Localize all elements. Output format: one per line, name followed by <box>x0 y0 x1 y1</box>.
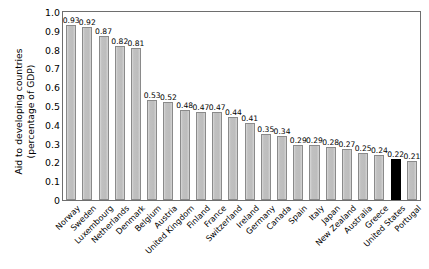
y-axis-tick-label: 0.9 <box>34 25 60 36</box>
bar[interactable]: 0.87 <box>99 36 109 200</box>
x-axis-tick-labels: NorwaySwedenLuxembourgNetherlandsDenmark… <box>63 203 420 269</box>
bar-value-label: 0.25 <box>355 144 372 153</box>
y-axis-tick-label: 0.1 <box>34 176 60 187</box>
bar-slot: 0.82 <box>112 12 128 200</box>
bar-value-label: 0.44 <box>225 108 242 117</box>
bar-slot: 0.25 <box>355 12 371 200</box>
bar-value-label: 0.82 <box>111 37 128 46</box>
bar-value-label: 0.48 <box>176 101 193 110</box>
bar-chart: Aid to developing countries (percentage … <box>0 0 429 269</box>
bars-layer: 0.930.920.870.820.810.530.520.480.470.47… <box>63 12 420 200</box>
bar-value-label: 0.21 <box>403 152 420 161</box>
bar[interactable]: 0.82 <box>115 46 125 200</box>
bar-value-label: 0.22 <box>387 150 404 159</box>
y-axis-tick-label: 1.0 <box>34 7 60 18</box>
bar-value-label: 0.53 <box>144 91 161 100</box>
y-axis-tick-label: 0.8 <box>34 44 60 55</box>
y-axis-tick-label: 0.3 <box>34 138 60 149</box>
bar-value-label: 0.41 <box>241 114 258 123</box>
bar-value-label: 0.87 <box>95 27 112 36</box>
y-axis-tick-label: 0.7 <box>34 63 60 74</box>
bar-slot: 0.92 <box>79 12 95 200</box>
bar-value-label: 0.29 <box>306 136 323 145</box>
bar-value-label: 0.47 <box>192 103 209 112</box>
bar-slot: 0.29 <box>306 12 322 200</box>
bar-slot: 0.47 <box>193 12 209 200</box>
y-axis-tick-label: 0.2 <box>34 157 60 168</box>
bar-slot: 0.87 <box>95 12 111 200</box>
bar-value-label: 0.24 <box>371 146 388 155</box>
y-axis-tick-label: 0.5 <box>34 101 60 112</box>
bar[interactable]: 0.93 <box>66 25 76 200</box>
bar-slot: 0.48 <box>177 12 193 200</box>
bar-slot: 0.34 <box>274 12 290 200</box>
bar-slot: 0.27 <box>339 12 355 200</box>
bar-slot: 0.28 <box>323 12 339 200</box>
bar[interactable]: 0.92 <box>82 27 92 200</box>
bar-value-label: 0.93 <box>63 16 80 25</box>
bar-value-label: 0.28 <box>322 138 339 147</box>
bar-value-label: 0.52 <box>160 93 177 102</box>
bar-slot: 0.21 <box>404 12 420 200</box>
bar-slot: 0.41 <box>242 12 258 200</box>
bar-value-label: 0.27 <box>338 140 355 149</box>
y-axis-tick-label: 0.6 <box>34 82 60 93</box>
bar-slot: 0.93 <box>63 12 79 200</box>
y-axis-tick-labels: 1.00.90.80.70.60.50.40.30.20.10 <box>32 11 60 201</box>
bar-value-label: 0.92 <box>79 18 96 27</box>
y-axis-tick-label: 0 <box>34 195 60 206</box>
y-axis-tick-label: 0.4 <box>34 119 60 130</box>
bar-value-label: 0.47 <box>209 103 226 112</box>
bar-value-label: 0.29 <box>290 136 307 145</box>
bar-value-label: 0.34 <box>274 127 291 136</box>
bar-slot: 0.29 <box>290 12 306 200</box>
bar-value-label: 0.35 <box>257 125 274 134</box>
bar-value-label: 0.81 <box>128 39 145 48</box>
